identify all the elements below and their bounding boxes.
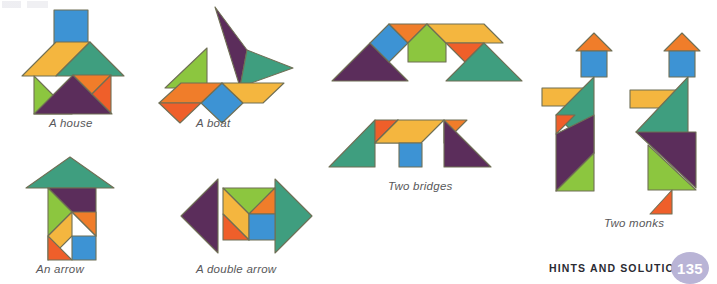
arrow-small-triangle-right [72, 212, 96, 236]
boat-small-triangle-hull-left [159, 103, 201, 123]
page-number-badge: 135 [671, 252, 709, 284]
boat-large-triangle-sail-right [240, 50, 293, 87]
caption-two-bridges: Two bridges [388, 180, 453, 192]
double-arrow-large-triangle-right-head [275, 179, 312, 253]
monk-left-square-head [581, 51, 607, 77]
figure-bridge-bottom [327, 101, 523, 173]
figure-arrow [22, 155, 118, 259]
figure-monk-left [542, 28, 630, 204]
bridge-bottom-square-center-leg [399, 143, 422, 167]
figure-house [14, 4, 136, 116]
bridge-bottom-large-triangle-left [329, 120, 375, 167]
arrow-square-bottom-right [72, 236, 96, 260]
bridge-bottom-large-triangle-right [444, 120, 491, 167]
arrow-large-triangle-head [26, 157, 114, 188]
figure-double-arrow [176, 174, 322, 256]
boat-medium-triangle-small-sail [165, 48, 207, 88]
figure-bridge-top [316, 6, 526, 86]
double-arrow-large-triangle-left-head [181, 179, 218, 253]
figure-boat [144, 4, 296, 116]
monk-right-small-triangle-hat [664, 33, 700, 51]
monk-right-square-head [669, 51, 695, 77]
caption-house: A house [49, 117, 93, 129]
figure-monk-right [628, 28, 717, 218]
monk-left-small-triangle-hat [576, 33, 612, 51]
monk-right-small-triangle-foot [650, 190, 672, 214]
double-arrow-square-bottom-right [249, 214, 275, 240]
caption-double-arrow: A double arrow [196, 263, 276, 275]
caption-two-monks: Two monks [604, 217, 664, 229]
caption-boat: A boat [196, 117, 230, 129]
house-square-chimney [54, 10, 88, 44]
caption-arrow: An arrow [36, 263, 84, 275]
